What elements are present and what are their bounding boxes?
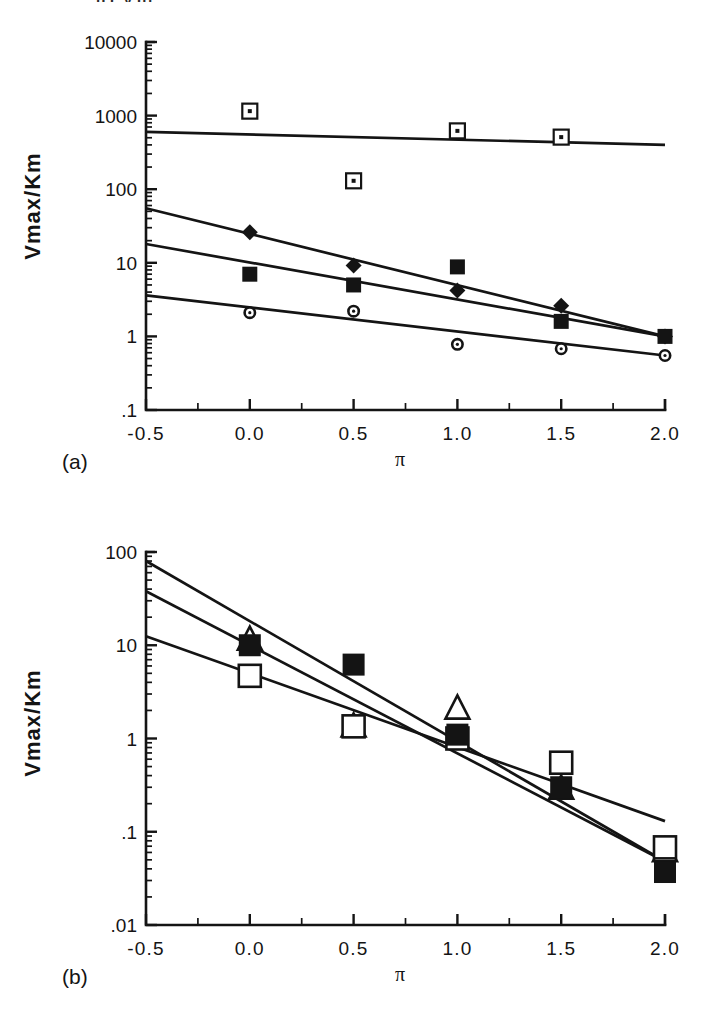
x-axis-label-panel-b: π: [395, 963, 405, 986]
x-tick-label: 1.0: [442, 938, 472, 959]
x-tick-label: 1.0: [442, 423, 472, 444]
x-tick-label: 0.5: [339, 423, 369, 444]
marker-filled-square: [346, 277, 361, 292]
marker-small-open-circle-dot: [248, 311, 251, 314]
marker-open-triangle: [445, 695, 469, 718]
marker-small-open-circle-dot: [560, 347, 563, 350]
regression-line-filled-diamond: [146, 208, 665, 336]
marker-filled-square: [450, 259, 465, 274]
marker-filled-square: [658, 329, 673, 344]
marker-open-square-dot-dot: [559, 135, 563, 139]
y-tick-label: 10000: [84, 32, 137, 53]
marker-open-square: [343, 715, 365, 737]
y-tick-label: 1000: [95, 106, 137, 127]
marker-filled-square: [343, 654, 365, 676]
y-tick-label: 10: [116, 253, 137, 274]
marker-open-square-dot-dot: [352, 179, 356, 183]
x-tick-label: -0.5: [127, 938, 165, 959]
x-tick-label: 2.0: [650, 423, 680, 444]
marker-filled-square: [554, 314, 569, 329]
marker-small-open-circle-dot: [352, 310, 355, 313]
panel-tag-b: (b): [62, 965, 88, 989]
x-tick-label: -0.5: [127, 423, 165, 444]
y-tick-label: 1: [126, 729, 137, 750]
y-tick-label: 100: [105, 542, 137, 563]
y-tick-label: 100: [105, 179, 137, 200]
y-tick-label: .01: [111, 915, 137, 936]
x-tick-label: 2.0: [650, 938, 680, 959]
y-tick-label: 1: [126, 326, 137, 347]
marker-small-open-circle-dot: [663, 354, 666, 357]
marker-filled-square: [446, 724, 468, 746]
axis-frame: [146, 552, 665, 925]
y-tick-label: .1: [121, 822, 137, 843]
marker-open-square: [550, 752, 572, 774]
marker-open-square-dot-dot: [248, 109, 252, 113]
x-tick-label: 1.5: [546, 938, 576, 959]
marker-open-square: [239, 665, 261, 687]
marker-filled-square: [654, 861, 676, 883]
plot-area-panel-a: 100001000100101.1-0.50.00.51.01.52.0: [0, 18, 712, 498]
y-tick-label: 10: [116, 635, 137, 656]
regression-line-open-square-dot: [146, 132, 665, 145]
x-axis-label-panel-a: π: [395, 448, 405, 471]
y-tick-label: .1: [121, 400, 137, 421]
regression-line-small-open-circle: [146, 295, 665, 355]
axis-frame: [146, 42, 665, 410]
panel-tag-a: (a): [62, 450, 88, 474]
regression-line-open-triangle: [146, 561, 665, 861]
x-tick-label: 0.5: [339, 938, 369, 959]
clipped-page-header: p c y g): [96, 0, 153, 2]
x-tick-label: 0.0: [235, 423, 265, 444]
marker-open-square-dot-dot: [455, 129, 459, 133]
marker-filled-diamond: [242, 224, 258, 240]
chart-panel-a: Vmax/Km 100001000100101.1-0.50.00.51.01.…: [0, 18, 712, 498]
marker-open-square: [654, 836, 676, 858]
marker-small-open-circle-dot: [456, 343, 459, 346]
x-tick-label: 0.0: [235, 938, 265, 959]
regression-line-filled-square: [146, 244, 665, 336]
x-tick-label: 1.5: [546, 423, 576, 444]
marker-filled-square: [242, 267, 257, 282]
plot-area-panel-b: 100101.1.01-0.50.00.51.01.52.0: [0, 505, 712, 1018]
regression-line-open-square: [146, 636, 665, 821]
regression-line-filled-square: [146, 591, 665, 861]
marker-filled-square: [550, 776, 572, 798]
marker-filled-square: [239, 634, 261, 656]
chart-panel-b: Vmax/Km 100101.1.01-0.50.00.51.01.52.0 (…: [0, 505, 712, 1018]
